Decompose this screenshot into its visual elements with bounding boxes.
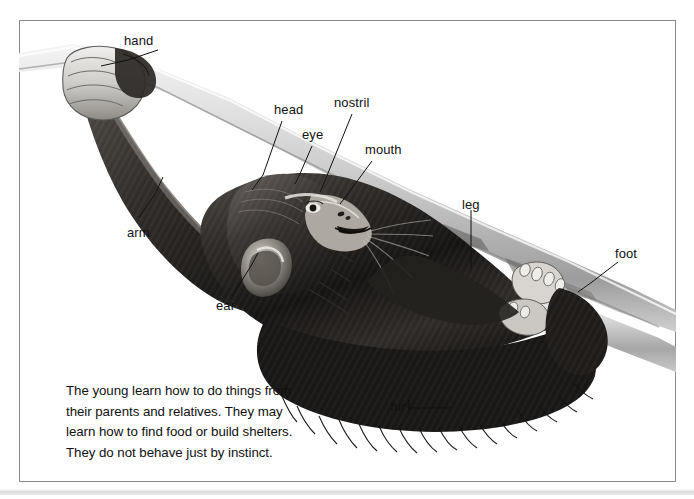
label-arm[interactable]: arm <box>127 226 150 239</box>
label-foot[interactable]: foot <box>615 247 637 260</box>
label-leg[interactable]: leg <box>462 198 480 211</box>
caption-line-3: learn how to find food or build shelters… <box>66 422 328 443</box>
label-mouth[interactable]: mouth <box>365 143 402 156</box>
label-nostril[interactable]: nostril <box>334 96 369 109</box>
label-hand[interactable]: hand <box>124 34 153 47</box>
label-ear[interactable]: ear <box>216 299 235 312</box>
figure-page: hand head eye nostril mouth arm ear leg … <box>0 0 694 499</box>
label-head[interactable]: head <box>274 103 303 116</box>
label-eye[interactable]: eye <box>302 128 323 141</box>
clipped-text-remnant <box>480 0 610 7</box>
page-bottom-rule <box>0 489 694 495</box>
caption-line-4: They do not behave just by instinct. <box>66 443 328 464</box>
caption-line-1: The young learn how to do things from <box>66 381 328 402</box>
label-fur[interactable]: fur <box>390 400 405 413</box>
caption-block: The young learn how to do things from th… <box>66 381 328 463</box>
caption-line-2: their parents and relatives. They may <box>66 402 328 423</box>
